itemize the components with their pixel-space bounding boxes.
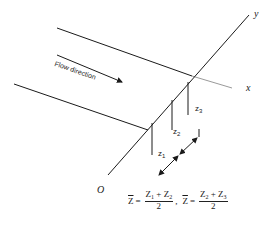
- x-axis-label: x: [246, 83, 250, 93]
- y-axis-line: [108, 15, 249, 175]
- formula-lhs-1: Z: [128, 196, 134, 206]
- depth-label-z1: z1: [158, 150, 165, 159]
- mean-depth-formula: Z = Z1 + Z2 2 , Z = Z2 + Z3 2: [128, 190, 230, 211]
- depth-label-z3: z3: [195, 105, 202, 114]
- fraction-1: Z1 + Z2 2: [145, 190, 174, 211]
- lower-bank-line: [14, 84, 148, 130]
- origin-label: O: [97, 185, 104, 195]
- formula-separator: ,: [175, 196, 177, 206]
- equals-sign-2: =: [190, 196, 195, 206]
- depth-label-z2: z2: [173, 128, 180, 137]
- fraction-2: Z2 + Z3 2: [199, 190, 228, 211]
- spacing-arrow-2-icon: [180, 138, 197, 154]
- channel-cross-section-diagram: Flow direction y x O z1 z2 z3 Z = Z1 + Z…: [0, 0, 270, 229]
- y-axis-label: y: [254, 9, 258, 19]
- formula-lhs-2: Z: [182, 196, 188, 206]
- equals-sign: =: [136, 196, 141, 206]
- x-axis-line: [192, 76, 232, 88]
